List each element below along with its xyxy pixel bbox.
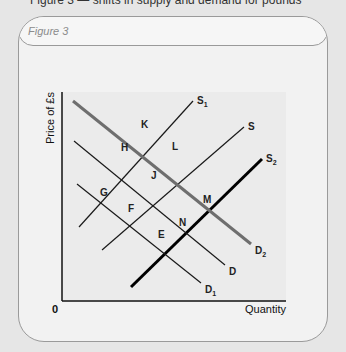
curve-label-d: D	[229, 266, 236, 277]
point-label-n: N	[179, 217, 186, 228]
curve-label-s: S	[248, 121, 255, 132]
y-axis-label: Price of £s	[44, 92, 56, 144]
x-axis-label: Quantity	[245, 303, 286, 315]
point-label-j: J	[151, 170, 157, 181]
supply-demand-diagram: S1SS2D2DD1 KHLGJMFNE Price of £s Quantit…	[0, 0, 346, 352]
point-label-f: F	[128, 203, 134, 214]
origin-label: 0	[52, 303, 58, 315]
point-label-l: L	[172, 141, 178, 152]
point-label-k: K	[141, 119, 149, 130]
point-label-m: M	[203, 194, 211, 205]
point-label-g: G	[100, 187, 108, 198]
point-label-h: H	[121, 142, 128, 153]
point-label-e: E	[158, 229, 165, 240]
